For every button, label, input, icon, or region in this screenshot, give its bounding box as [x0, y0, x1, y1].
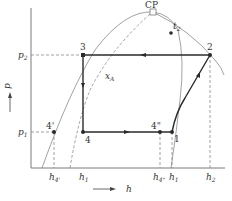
point-4pp-label: 4": [151, 121, 161, 131]
ph-diagram: p h CP t2 2 3 4 1 4" 4' xA p2: [0, 0, 232, 201]
svg-text:h: h: [126, 184, 132, 194]
t2-point: [169, 31, 173, 35]
point-3-label: 3: [80, 42, 86, 52]
arrow-up-icon: [8, 92, 12, 98]
h-axis-label: h: [93, 184, 132, 194]
point-1-label: 1: [174, 134, 180, 144]
point-3: [81, 53, 85, 57]
p-axis-label: p: [2, 83, 12, 112]
arrow-down-icon: [81, 83, 85, 88]
t2-label: t2: [173, 21, 181, 32]
quality-line: [70, 14, 150, 168]
h4pp-label: h4": [153, 172, 166, 183]
p1-label: p1: [18, 127, 28, 138]
cycle: [83, 55, 210, 132]
point-4-label: 4: [85, 135, 91, 145]
point-4: [81, 130, 85, 134]
isotherm-t2: [153, 12, 224, 75]
cp-label: CP: [145, 0, 158, 10]
h1a-label: h1: [79, 172, 89, 183]
point-2: [208, 53, 212, 57]
arrow-right-icon: [110, 187, 116, 191]
h4p-label: h4': [49, 172, 61, 183]
p2-label: p2: [18, 50, 28, 61]
svg-text:p: p: [2, 83, 12, 89]
saturation-dome: [42, 12, 182, 168]
arrow-right-icon: [124, 130, 130, 134]
h1b-label: h1: [169, 172, 179, 183]
h2-label: h2: [206, 172, 216, 183]
point-2-label: 2: [207, 42, 213, 52]
arrow-left-icon: [140, 53, 146, 57]
quality-label: xA: [105, 71, 115, 82]
point-4p-label: 4': [46, 121, 54, 131]
